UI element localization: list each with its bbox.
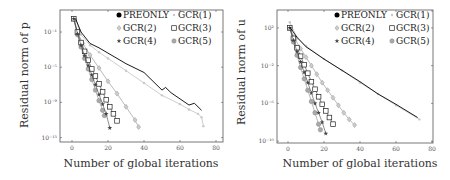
x-tick-label: 0 bbox=[70, 144, 74, 151]
legend-marker-circle-icon bbox=[172, 39, 176, 43]
legend-label: GCR(5) bbox=[178, 36, 212, 46]
series-gcr3 bbox=[72, 17, 120, 124]
legend-marker-square-icon bbox=[172, 26, 177, 31]
legend-marker-small-circle-icon bbox=[391, 14, 393, 16]
legend-label: GCR(5) bbox=[396, 36, 430, 46]
y-tick-label: 10² bbox=[264, 24, 275, 31]
legend-marker-small-circle-icon bbox=[173, 14, 175, 16]
y-tick-label: 10⁻⁶ bbox=[261, 99, 275, 106]
plot-area-u: 02040608010²10⁻²10⁻⁶10⁻¹⁰PREONLYGCR(1)GC… bbox=[225, 0, 450, 180]
y-tick-label: 10⁻¹ bbox=[44, 28, 57, 35]
y-tick-label: 10⁻⁵ bbox=[44, 63, 58, 70]
legend-label: GCR(2) bbox=[341, 23, 375, 33]
legend-marker-diamond-icon bbox=[117, 26, 121, 31]
x-tick-label: 40 bbox=[356, 145, 364, 152]
legend-marker-square-icon bbox=[390, 26, 395, 31]
series-gcr3 bbox=[288, 26, 336, 127]
x-tick-label: 0 bbox=[286, 145, 290, 152]
y-axis-label-text: Residual norm of u bbox=[235, 19, 248, 125]
legend-label: GCR(3) bbox=[396, 23, 430, 33]
chart-residual-p: 02040608010⁻¹10⁻⁵10⁻⁹10⁻¹³PREONLYGCR(1)G… bbox=[0, 0, 225, 180]
legend-label: GCR(1) bbox=[178, 10, 212, 20]
legend-label: GCR(1) bbox=[396, 10, 430, 20]
legend-marker-diamond-icon bbox=[335, 26, 339, 31]
legend-marker-star-icon bbox=[335, 39, 340, 44]
x-tick-label: 60 bbox=[176, 144, 184, 151]
x-tick-label: 80 bbox=[212, 144, 220, 151]
legend-label: PREONLY bbox=[123, 10, 170, 20]
x-tick-label: 40 bbox=[140, 144, 148, 151]
series-gcr4 bbox=[71, 16, 112, 130]
y-tick-label: 10⁻¹³ bbox=[41, 134, 57, 141]
y-tick-label: 10⁻⁹ bbox=[44, 98, 58, 105]
legend-label: GCR(2) bbox=[123, 23, 157, 33]
x-tick-label: 20 bbox=[320, 145, 328, 152]
x-tick-label: 80 bbox=[428, 145, 436, 152]
legend-label: GCR(3) bbox=[178, 23, 212, 33]
x-tick-label: 20 bbox=[104, 144, 112, 151]
y-axis-label: Residual norm of u bbox=[235, 19, 248, 125]
y-tick-label: 10⁻¹⁰ bbox=[258, 137, 274, 144]
y-axis-label: Residual norm of p bbox=[18, 22, 31, 128]
figure: 02040608010⁻¹10⁻⁵10⁻⁹10⁻¹³PREONLYGCR(1)G… bbox=[0, 0, 450, 180]
legend-marker-filled-circle-icon bbox=[117, 13, 122, 18]
legend-marker-filled-circle-icon bbox=[335, 13, 340, 18]
y-tick-label: 10⁻² bbox=[261, 62, 275, 69]
plot-area-p: 02040608010⁻¹10⁻⁵10⁻⁹10⁻¹³PREONLYGCR(1)G… bbox=[0, 0, 225, 180]
legend-label: GCR(4) bbox=[123, 36, 157, 46]
legend-label: GCR(4) bbox=[341, 36, 375, 46]
legend-marker-circle-icon bbox=[390, 39, 394, 43]
legend-marker-star-icon bbox=[117, 39, 122, 44]
x-axis-label: Number of global iterations bbox=[56, 157, 226, 170]
legend: PREONLYGCR(1)GCR(2)GCR(3)GCR(4)GCR(5) bbox=[117, 10, 212, 46]
legend: PREONLYGCR(1)GCR(2)GCR(3)GCR(4)GCR(5) bbox=[335, 10, 430, 46]
series-gcr5 bbox=[288, 26, 323, 132]
legend-label: PREONLY bbox=[341, 10, 388, 20]
y-axis-label-text: Residual norm of p bbox=[18, 22, 31, 128]
x-axis-label: Number of global iterations bbox=[275, 157, 445, 170]
chart-residual-u: 02040608010²10⁻²10⁻⁶10⁻¹⁰PREONLYGCR(1)GC… bbox=[225, 0, 450, 180]
x-tick-label: 60 bbox=[392, 145, 400, 152]
